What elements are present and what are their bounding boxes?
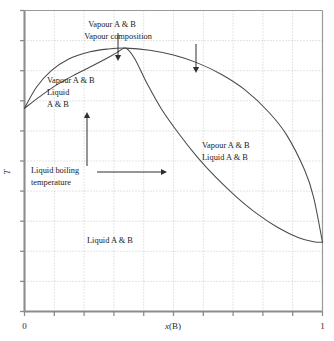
annotation-arrow-head — [161, 169, 167, 175]
annotation-vapour-composition: Vapour composition — [84, 32, 199, 73]
annotation-text-line: temperature — [31, 178, 71, 187]
annotation-liquid-boiling-temperature: Liquid boilingtemperature — [31, 166, 167, 187]
annotation-arrow-head — [84, 112, 90, 118]
annotation-liquid-ab-bottom: Liquid A & B — [87, 236, 133, 245]
annotation-text-line: Vapour A & B — [88, 20, 136, 29]
annotation-text-line: A & B — [47, 100, 69, 109]
annotation-text-line: Liquid A & B — [202, 153, 248, 162]
annotation-text-line: Vapour composition — [84, 32, 153, 41]
annotation-text-line: Liquid — [47, 88, 70, 97]
annotation-arrow-head — [193, 67, 199, 73]
y-axis-label: T — [2, 169, 12, 175]
annotation-vapour-liquid-right: Vapour A & BLiquid A & B — [202, 141, 250, 162]
annotation-text-line: Vapour A & B — [47, 76, 95, 85]
x-axis-label: x(B) — [164, 321, 181, 331]
annotation-text-line: Liquid A & B — [87, 236, 133, 245]
phase-diagram-svg: 01x(B)TVapour A & BVapour compositionVap… — [0, 0, 334, 341]
x-axis-max-label: 1 — [320, 321, 325, 331]
annotation-text-line: Vapour A & B — [202, 141, 250, 150]
phase-diagram-figure: 01x(B)TVapour A & BVapour compositionVap… — [0, 0, 334, 341]
annotation-arrow-head — [115, 55, 121, 61]
annotation-text-line: Liquid boiling — [31, 166, 80, 175]
x-axis-min-label: 0 — [22, 321, 27, 331]
